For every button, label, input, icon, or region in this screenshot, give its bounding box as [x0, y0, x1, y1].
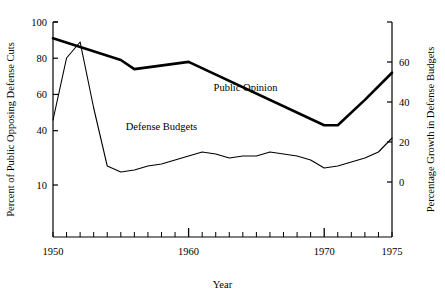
left-axis-tick-label: 10 — [37, 180, 48, 191]
two-axis-line-chart: 1040608010002040601950196019701975 Publi… — [0, 0, 445, 296]
left-axis-tick-label: 100 — [31, 17, 47, 28]
left-axis-title: Percent of Public Opposing Defense Cuts — [5, 42, 16, 217]
chart-background — [0, 0, 445, 296]
right-axis-tick-label: 60 — [399, 57, 410, 68]
x-axis-tick-label: 1975 — [382, 246, 403, 257]
series-annotation-public-opinion: Public Opinion — [214, 82, 279, 93]
chart-container: 1040608010002040601950196019701975 Publi… — [0, 0, 445, 296]
right-axis-tick-label: 20 — [399, 137, 410, 148]
right-axis-tick-label: 40 — [399, 97, 410, 108]
right-axis-tick-label: 0 — [399, 177, 404, 188]
x-axis-tick-label: 1960 — [178, 246, 199, 257]
series-annotation-defense-budgets: Defense Budgets — [126, 121, 197, 132]
right-axis-title: Percentage Growth in Defense Budgets — [425, 47, 436, 213]
x-axis-tick-label: 1950 — [43, 246, 64, 257]
left-axis-tick-label: 60 — [37, 89, 48, 100]
x-axis-tick-label: 1970 — [314, 246, 335, 257]
left-axis-tick-label: 80 — [37, 53, 48, 64]
x-axis-title: Year — [213, 279, 233, 290]
left-axis-tick-label: 40 — [37, 125, 48, 136]
